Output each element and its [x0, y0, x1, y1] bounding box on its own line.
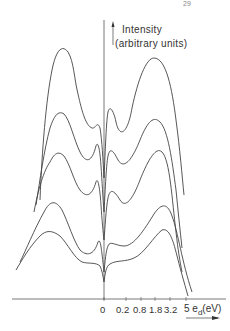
ylabel-line1: Intensity	[122, 24, 162, 35]
x-axis-label: 5 ed(eV)	[184, 303, 221, 317]
x-axis-label-unit: (eV)	[202, 303, 221, 314]
tick-label-0: 0	[100, 304, 105, 315]
tick-label-3: 1.8	[149, 304, 162, 315]
tick-label-2: 0.8	[133, 304, 146, 315]
x-axis-label-main: 5 e	[184, 303, 198, 314]
curve-1	[40, 49, 184, 200]
tick-label-4: 3.2	[164, 304, 177, 315]
arrow-head-icon	[112, 21, 115, 27]
curve-5	[16, 230, 188, 296]
spectra-plot	[0, 0, 230, 331]
curve-2	[36, 113, 182, 248]
ylabel-line2: (arbitrary units)	[115, 38, 187, 49]
curve-3	[34, 151, 182, 272]
tick-label-1: 0.2	[116, 304, 129, 315]
